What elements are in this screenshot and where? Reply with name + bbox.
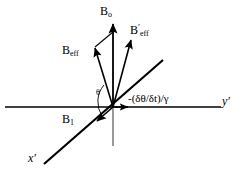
b1-label: B1 [62,110,74,127]
x-prime-axis-label: x′ [28,152,36,164]
b0-label-base: B [100,4,108,18]
diagram-canvas [0,0,241,182]
b0-label-subscript: o [108,10,112,19]
rate-expression-label: -(δθ/δt)/γ [128,93,169,104]
beff-prime-label-base: B [130,23,138,37]
b1-label-subscript: 1 [70,118,74,127]
beff-prime-label-subscript: eff [140,29,149,38]
beff-prime-label: B′eff [130,21,149,38]
vector-diagram-figure: Bo B′eff Beff B1 θ -(δθ/δt)/γ y′ x′ [0,0,241,182]
b0-label: Bo [100,2,112,19]
b1-vector [97,107,113,121]
beff-label-subscript: eff [70,49,79,58]
beff-label: Beff [62,41,79,58]
theta-label: θ [96,89,100,97]
b1-label-base: B [62,112,70,126]
beff-label-base: B [62,43,70,57]
y-prime-axis-label: y′ [222,95,230,107]
beff-construction-line [95,32,113,47]
